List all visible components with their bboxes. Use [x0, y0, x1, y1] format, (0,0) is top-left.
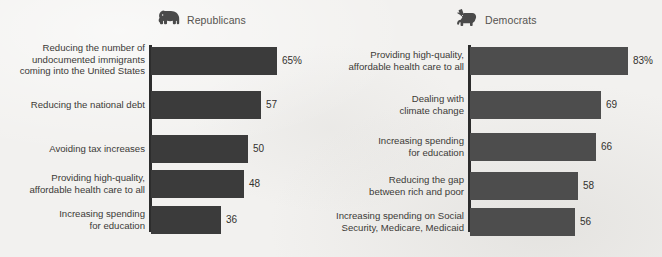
- panel-democrats: Democrats Providing high-quality, afford…: [331, 0, 662, 257]
- category-label: Providing high-quality, affordable healt…: [322, 49, 464, 72]
- bar: [151, 206, 221, 234]
- bar: [151, 170, 244, 198]
- plot-area-democrats: Providing high-quality, affordable healt…: [331, 45, 662, 235]
- category-label: Avoiding tax increases: [3, 143, 145, 155]
- panel-republicans: Republicans Reducing the number of undoc…: [0, 0, 331, 257]
- bar: [470, 133, 596, 161]
- bar-row: Providing high-quality, affordable healt…: [331, 47, 662, 75]
- category-label: Reducing the national debt: [3, 99, 145, 111]
- panel-header-democrats: Democrats: [331, 9, 662, 31]
- bar-value-label: 48: [249, 170, 260, 198]
- bar-row: Avoiding tax increases 50: [0, 135, 331, 163]
- bar-value-label: 56: [580, 208, 591, 236]
- bar-row: Dealing with climate change 69: [331, 91, 662, 119]
- bar-value-label: 69: [606, 91, 617, 119]
- category-label: Increasing spending for education: [322, 135, 464, 158]
- bar: [470, 208, 575, 236]
- bar: [470, 172, 578, 200]
- bar: [470, 91, 601, 119]
- bar-row: Providing high-quality, affordable healt…: [0, 170, 331, 198]
- bar-value-label: 66: [601, 133, 612, 161]
- bar-value-label: 57: [266, 91, 277, 119]
- bar-row: Reducing the number of undocumented immi…: [0, 47, 331, 75]
- bar-row: Reducing the gap between rich and poor 5…: [331, 172, 662, 200]
- bar-value-label: 65%: [282, 47, 302, 75]
- panel-header-republicans: Republicans: [0, 9, 331, 31]
- bar: [470, 47, 628, 75]
- bar-row: Increasing spending for education 36: [0, 206, 331, 234]
- bar-value-label: 83%: [633, 47, 653, 75]
- bar-value-label: 58: [583, 172, 594, 200]
- bar: [151, 135, 248, 163]
- bar: [151, 91, 261, 119]
- plot-area-republicans: Reducing the number of undocumented immi…: [0, 45, 331, 235]
- bar-row: Increasing spending for education 66: [331, 133, 662, 161]
- bar-value-label: 36: [226, 206, 237, 234]
- elephant-icon: [158, 9, 180, 31]
- panel-title-democrats: Democrats: [485, 14, 537, 26]
- category-label: Dealing with climate change: [322, 93, 464, 116]
- category-label: Increasing spending for education: [3, 208, 145, 231]
- category-label: Increasing spending on Social Security, …: [322, 210, 464, 233]
- bar-value-label: 50: [253, 135, 264, 163]
- category-label: Reducing the number of undocumented immi…: [3, 42, 145, 77]
- grouped-bar-chart: Republicans Reducing the number of undoc…: [0, 0, 662, 257]
- panel-title-republicans: Republicans: [187, 14, 246, 26]
- bar-row: Reducing the national debt 57: [0, 91, 331, 119]
- category-label: Reducing the gap between rich and poor: [322, 174, 464, 197]
- bar-row: Increasing spending on Social Security, …: [331, 208, 662, 236]
- donkey-icon: [456, 9, 478, 31]
- category-label: Providing high-quality, affordable healt…: [3, 172, 145, 195]
- bar: [151, 47, 277, 75]
